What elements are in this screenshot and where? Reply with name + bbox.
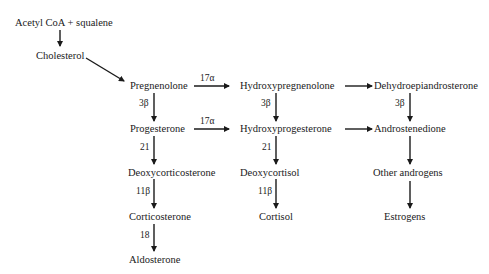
node-hydroxypregnenolone: Hydroxypregnenolone bbox=[240, 80, 334, 92]
node-dehydroepiandrosterone: Dehydroepiandrosterone bbox=[374, 80, 478, 92]
node-cholesterol: Cholesterol bbox=[36, 50, 84, 62]
node-pregnenolone: Pregnenolone bbox=[130, 80, 188, 92]
label-21-hprog: 21 bbox=[262, 142, 272, 153]
node-progesterone: Progesterone bbox=[130, 123, 185, 135]
pathway-arrows bbox=[0, 0, 489, 274]
node-other-androgens: Other androgens bbox=[373, 167, 443, 179]
label-18-cortico: 18 bbox=[140, 230, 150, 241]
label-3beta-hpreg: 3β bbox=[261, 98, 271, 109]
node-hydroxyprogesterone: Hydroxyprogesterone bbox=[240, 123, 332, 135]
label-11beta-doxcortisol: 11β bbox=[258, 186, 272, 197]
node-estrogens: Estrogens bbox=[384, 211, 425, 223]
node-cortisol: Cortisol bbox=[259, 211, 293, 223]
node-deoxycorticosterone: Deoxycorticosterone bbox=[128, 167, 215, 179]
arrow-cholesterol-pregnenolone bbox=[86, 58, 124, 81]
node-aldosterone: Aldosterone bbox=[129, 254, 180, 266]
label-17alpha-preg: 17α bbox=[200, 73, 214, 84]
label-21-prog: 21 bbox=[140, 142, 150, 153]
node-androstenedione: Androstenedione bbox=[374, 123, 446, 135]
node-deoxycortisol: Deoxycortisol bbox=[240, 167, 300, 179]
label-3beta-preg: 3β bbox=[139, 98, 149, 109]
label-3beta-dhea: 3β bbox=[395, 98, 405, 109]
label-11beta-doc: 11β bbox=[136, 186, 150, 197]
label-17alpha-prog: 17α bbox=[200, 116, 214, 127]
node-acetyl-coa-squalene: Acetyl CoA + squalene bbox=[15, 17, 113, 29]
node-corticosterone: Corticosterone bbox=[129, 211, 191, 223]
